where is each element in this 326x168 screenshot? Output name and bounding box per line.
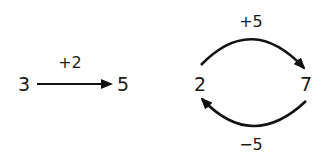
operation-label-minus-5: −5 xyxy=(239,137,263,153)
arrows-layer xyxy=(0,0,326,168)
arc-arrow-2-to-7 xyxy=(201,39,304,68)
number-2: 2 xyxy=(194,75,206,94)
number-3: 3 xyxy=(18,75,30,94)
number-7: 7 xyxy=(300,75,312,94)
number-5: 5 xyxy=(117,75,129,94)
operation-label-plus-2: +2 xyxy=(58,55,82,71)
operation-label-plus-5: +5 xyxy=(239,14,263,30)
arc-arrow-7-to-2 xyxy=(202,99,306,126)
